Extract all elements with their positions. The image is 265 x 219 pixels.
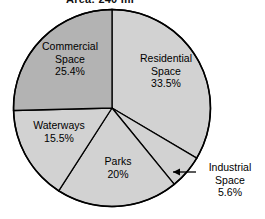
pie-label-residential: Residential Space 33.5% [126, 52, 206, 90]
pie-label-industrial: Industrial Space 5.6% [198, 161, 262, 199]
pie-label-residential-value: 33.5% [126, 77, 206, 90]
pie-label-industrial-line1: Industrial [198, 161, 262, 174]
pie-label-industrial-value: 5.6% [198, 186, 262, 199]
pie-label-waterways: Waterways 15.5% [14, 119, 104, 144]
pie-chart-figure: Area: 240 mi Commercial Space 25.4% Resi… [0, 0, 265, 219]
pie-label-waterways-value: 15.5% [14, 132, 104, 145]
pie-label-parks-value: 20% [82, 168, 154, 181]
pie-label-commercial-line2: Space [26, 53, 114, 66]
pie-label-parks: Parks 20% [82, 155, 154, 180]
pie-label-residential-line2: Space [126, 65, 206, 78]
pie-label-commercial: Commercial Space 25.4% [26, 40, 114, 78]
pie-label-commercial-value: 25.4% [26, 65, 114, 78]
pie-label-parks-line1: Parks [82, 155, 154, 168]
pie-label-commercial-line1: Commercial [26, 40, 114, 53]
pie-label-waterways-line1: Waterways [14, 119, 104, 132]
pie-label-industrial-line2: Space [198, 174, 262, 187]
pie-label-residential-line1: Residential [126, 52, 206, 65]
